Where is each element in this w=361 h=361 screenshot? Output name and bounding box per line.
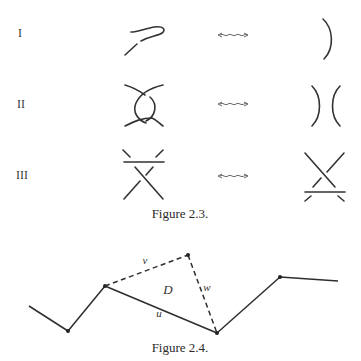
move-label-I: I	[18, 26, 22, 40]
figure-2-3-caption: Figure 2.3.	[152, 206, 209, 221]
region-label-D: D	[162, 282, 173, 297]
wavy-double-arrow-icon	[218, 102, 248, 106]
edge-label-w: w	[203, 281, 211, 293]
move-label-III: III	[16, 168, 28, 182]
figure-2-4-caption: Figure 2.4.	[152, 340, 209, 355]
vertex	[278, 275, 282, 279]
edge-label-u: u	[156, 307, 162, 319]
edge-label-v: v	[143, 254, 148, 266]
wavy-double-arrow-icon	[218, 174, 248, 178]
wavy-double-arrow-icon	[218, 33, 248, 37]
vertex	[66, 329, 70, 333]
reidemeister-II-arcs	[312, 86, 340, 126]
reidemeister-II-bigon	[125, 85, 163, 126]
reidemeister-I-arc	[323, 19, 331, 59]
move-label-II: II	[17, 97, 25, 111]
polygonal-path	[29, 275, 338, 335]
reidemeister-I-kink	[125, 27, 164, 55]
reidemeister-III-right	[305, 153, 345, 201]
reidemeister-III-left	[123, 150, 164, 199]
figure-canvas: I II III	[0, 0, 361, 361]
vertex-apex	[186, 253, 190, 257]
vertex	[215, 331, 219, 335]
